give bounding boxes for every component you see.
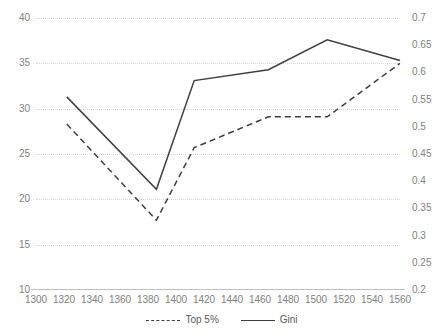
legend-item-top5[interactable]: Top 5% [146,315,218,325]
series-line-top-5 [67,63,400,220]
legend-label-top5: Top 5% [185,315,218,325]
line-chart: 40353025201510 0.70.650.60.550.50.450.40… [0,0,444,336]
legend-item-gini[interactable]: Gini [241,315,298,325]
series-line-gini [67,40,400,190]
chart-legend: Top 5% Gini [0,310,444,330]
legend-label-gini: Gini [280,315,298,325]
legend-swatch-dashed-icon [146,320,180,321]
legend-swatch-solid-icon [241,320,275,321]
series-layer [0,0,444,336]
